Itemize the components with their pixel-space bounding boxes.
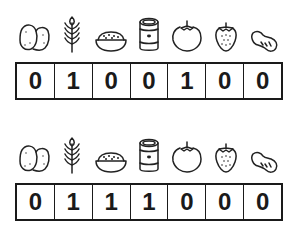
bit-cell: 0 (243, 64, 281, 98)
wheat-icon (53, 134, 91, 174)
bit-cell: 1 (130, 185, 168, 219)
bit-cell: 0 (243, 185, 281, 219)
bit-cell: 0 (167, 185, 205, 219)
bit-cell: 0 (17, 64, 54, 98)
tomato-icon (168, 13, 206, 53)
potato-icon (15, 134, 53, 174)
strawberry-icon (206, 134, 244, 174)
bean-can-icon (130, 13, 168, 53)
bit-cell: 1 (54, 64, 92, 98)
binary-code-row-2: 0 1 1 1 0 0 0 (15, 183, 283, 221)
bit-cell: 0 (17, 185, 54, 219)
potato-icon (15, 13, 53, 53)
peanut-icon (245, 13, 283, 53)
bit-cell: 1 (92, 185, 130, 219)
grain-bowl-icon (92, 13, 130, 53)
strawberry-icon (206, 13, 244, 53)
bit-cell: 0 (205, 64, 243, 98)
bit-cell: 0 (92, 64, 130, 98)
bit-cell: 0 (130, 64, 168, 98)
tomato-icon (168, 134, 206, 174)
bit-cell: 1 (54, 185, 92, 219)
food-icons-row (15, 134, 283, 174)
bean-can-icon (130, 134, 168, 174)
grain-bowl-icon (92, 134, 130, 174)
food-code-group-1: 0 1 0 0 1 0 0 (15, 13, 283, 100)
binary-code-row-1: 0 1 0 0 1 0 0 (15, 62, 283, 100)
food-code-group-2: 0 1 1 1 0 0 0 (15, 134, 283, 221)
food-icons-row (15, 13, 283, 53)
bit-cell: 1 (167, 64, 205, 98)
peanut-icon (245, 134, 283, 174)
bit-cell: 0 (205, 185, 243, 219)
wheat-icon (53, 13, 91, 53)
